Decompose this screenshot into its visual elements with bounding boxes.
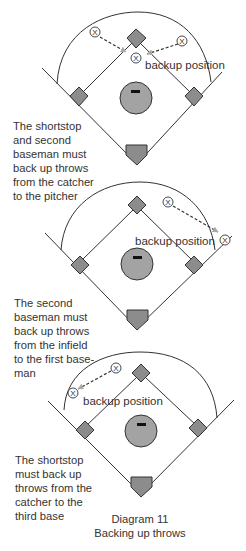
svg-text:X: X (70, 389, 76, 398)
svg-text:X: X (133, 54, 139, 63)
arrow-shortstop (100, 37, 126, 52)
player-marker-second-baseman: X (163, 197, 173, 207)
home-plate (127, 310, 148, 330)
svg-text:X: X (113, 364, 119, 373)
figure-number: Diagram 11 (80, 512, 200, 526)
pitcher-rubber (137, 423, 146, 426)
backup-position-label: backup position (83, 395, 163, 407)
first-base (185, 256, 203, 274)
pitcher-mound (125, 415, 157, 447)
player-marker-backup: X (220, 235, 230, 245)
svg-text:X: X (165, 198, 171, 207)
figure-caption: Diagram 11 Backing up throws (80, 512, 200, 540)
outfield-arc (57, 12, 211, 84)
diagram-2-description: The second baseman must back up throws f… (14, 296, 114, 380)
figure-title: Backing up throws (80, 526, 200, 540)
pitcher-mound (121, 248, 153, 280)
home-plate (126, 145, 147, 165)
player-marker-backup: X (131, 53, 141, 63)
svg-text:X: X (222, 236, 228, 245)
foul-line-right (137, 236, 232, 328)
svg-text:X: X (92, 28, 98, 37)
arrow-second-baseman (173, 206, 218, 232)
foul-line-right (137, 72, 222, 164)
player-marker-backup: X (68, 388, 78, 398)
arrow-second-baseman (147, 44, 178, 54)
backup-position-label: backup position (135, 235, 215, 247)
diagram-1-description: The shortstop and second baseman must ba… (13, 119, 113, 203)
third-base (71, 256, 89, 274)
player-marker-second-baseman: X (177, 36, 187, 46)
pitcher-rubber (131, 90, 140, 93)
pitcher-mound (120, 82, 152, 114)
pitcher-rubber (133, 256, 142, 259)
second-base (128, 196, 146, 214)
player-marker-shortstop: X (90, 27, 100, 37)
home-plate (131, 477, 152, 497)
foul-line-right (141, 400, 234, 494)
svg-text:X: X (179, 37, 185, 46)
third-base (76, 421, 94, 439)
backup-position-label: backup position (145, 59, 225, 71)
